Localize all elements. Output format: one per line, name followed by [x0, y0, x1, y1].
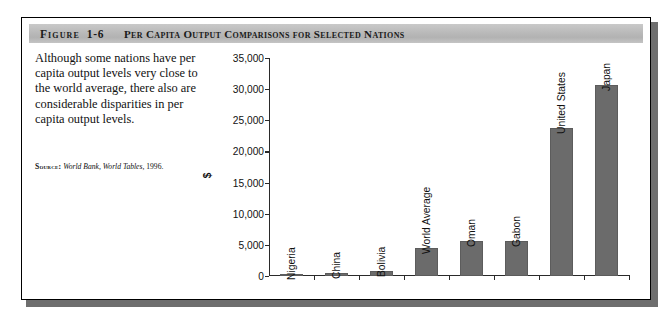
- x-axis-tick-mark: [629, 275, 630, 280]
- caption-text: Although some nations have per capita ou…: [35, 51, 211, 127]
- figure-title: Per Capita Output Comparisons for Select…: [124, 28, 405, 40]
- bar-category-label: Gabon: [511, 216, 522, 247]
- y-axis-tick-mark: [265, 245, 270, 246]
- y-axis-tick-label: 25,000: [233, 115, 264, 126]
- source-year: 1996.: [146, 162, 163, 171]
- y-axis-tick-mark: [265, 276, 270, 277]
- bar-category-label: Bolivia: [376, 247, 387, 277]
- figure-label: Figure: [40, 28, 80, 40]
- y-axis-line: [269, 58, 270, 276]
- figure-root: Figure 1-6 Per Capita Output Comparisons…: [0, 0, 665, 326]
- x-axis-tick-mark: [539, 275, 540, 280]
- y-axis-tick-mark: [265, 120, 270, 121]
- y-axis-tick-mark: [265, 58, 270, 59]
- figure-title-band: Figure 1-6 Per Capita Output Comparisons…: [29, 24, 643, 43]
- figure-number: 1-6: [87, 28, 104, 40]
- y-axis-tick-mark: [265, 89, 270, 90]
- x-axis-tick-mark: [584, 275, 585, 280]
- bar[interactable]: [550, 128, 573, 276]
- x-axis-tick-mark: [314, 275, 315, 280]
- bar-category-label: China: [331, 252, 342, 279]
- y-axis-title: $: [202, 173, 213, 179]
- bar[interactable]: [595, 85, 618, 276]
- source-label: Source:: [35, 162, 61, 171]
- plot-area: NigeriaChinaBoliviaWorld AverageOmanGabo…: [269, 58, 629, 276]
- bar-category-label: Japan: [601, 63, 612, 91]
- x-axis-tick-mark: [494, 275, 495, 280]
- y-axis-tick-labels: 05,00010,00015,00020,00025,00030,00035,0…: [216, 58, 264, 276]
- y-axis-tick-mark: [265, 214, 270, 215]
- x-axis-tick-mark: [359, 275, 360, 280]
- figure-caption: Although some nations have per capita ou…: [35, 51, 211, 127]
- figure-frame: Figure 1-6 Per Capita Output Comparisons…: [21, 17, 651, 300]
- bar-category-label: World Average: [421, 187, 432, 254]
- y-axis-tick-mark: [265, 183, 270, 184]
- y-axis-tick-label: 15,000: [233, 177, 264, 188]
- bar-category-label: Oman: [466, 219, 477, 247]
- y-axis-tick-mark: [265, 151, 270, 152]
- y-axis-tick-label: 30,000: [233, 84, 264, 95]
- x-axis-tick-mark: [449, 275, 450, 280]
- y-axis-tick-label: 5,000: [239, 239, 265, 250]
- bar-chart: $ 05,00010,00015,00020,00025,00030,00035…: [202, 58, 642, 296]
- y-axis-tick-label: 20,000: [233, 146, 264, 157]
- y-axis-tick-label: 10,000: [233, 208, 264, 219]
- bar-category-label: Nigeria: [286, 247, 297, 280]
- x-axis-tick-mark: [404, 275, 405, 280]
- source-reference: World Bank, World Tables,: [63, 162, 144, 171]
- bar-category-label: United States: [556, 72, 567, 134]
- y-axis-tick-label: 0: [258, 271, 264, 282]
- y-axis-tick-label: 35,000: [233, 53, 264, 64]
